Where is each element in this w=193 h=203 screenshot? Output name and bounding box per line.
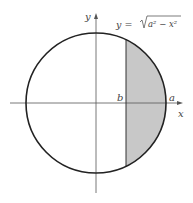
y-axis-arrow-icon (94, 13, 98, 19)
equation-label: y = a² − x² (115, 16, 181, 30)
shaded-region (126, 30, 171, 180)
point-label-a: a (169, 92, 175, 103)
x-axis-arrow-icon (177, 101, 183, 105)
x-axis-label: x (178, 108, 184, 119)
y-axis-label: y (84, 11, 91, 22)
point-label-b: b (117, 92, 123, 103)
circle-diagram: y x b a y = a² − x² (0, 0, 193, 203)
equation-radicand: a² − x² (148, 19, 178, 29)
equation-lhs: y = (115, 19, 132, 30)
